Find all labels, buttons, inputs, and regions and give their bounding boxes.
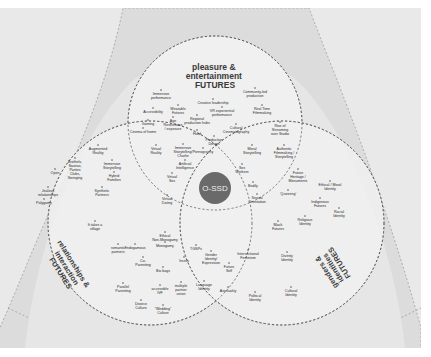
node-dot	[261, 104, 262, 105]
node-dot	[277, 220, 278, 221]
node-dot	[160, 89, 161, 90]
node-polygamy: Polygamy	[36, 198, 52, 205]
node-dot	[203, 280, 204, 281]
node-dot	[117, 243, 118, 244]
node-label: Polygamy	[36, 201, 52, 205]
node-dot	[171, 172, 172, 173]
node-dot	[147, 119, 148, 120]
node-dot	[54, 168, 55, 169]
node-dot	[241, 163, 242, 164]
node-dot	[183, 256, 184, 257]
node-brothels-saunas: Brothels,Saunas,PartiesClubs,Swinging	[68, 157, 83, 180]
center-label: O-SSD	[202, 184, 228, 193]
node-label: Gaming	[142, 122, 155, 126]
node-label: ReligiousIdentity	[298, 218, 313, 226]
node-label: Endogamous	[124, 246, 145, 250]
node-dot	[221, 106, 222, 107]
node-label: Bodily	[248, 184, 258, 188]
node-dot	[287, 189, 288, 190]
node-dot	[286, 251, 287, 252]
node-label: Real TimeFilmmaking	[253, 107, 271, 115]
node-dot	[213, 135, 214, 136]
node-dot	[210, 250, 211, 251]
node-dot	[297, 168, 298, 169]
node-dot	[251, 144, 252, 145]
node-label: AuthenticFilmmaking /Storytelling	[274, 147, 294, 159]
node-label: ImmersiveStorytelling	[103, 162, 121, 170]
node-dot	[228, 262, 229, 263]
node-label: It takes avillage	[88, 223, 103, 231]
node-label: Creative leadership	[198, 101, 229, 105]
node-dot	[111, 159, 112, 160]
node-label: DivinityIdentity	[281, 254, 293, 262]
node-dot	[113, 171, 114, 172]
node-dot	[247, 249, 248, 250]
node-dot	[196, 129, 197, 130]
node-label: WearableFutures	[170, 107, 185, 115]
node-label: VirtualDating	[162, 197, 172, 205]
node-label: Open	[51, 171, 60, 175]
node-label: 'Queering'	[280, 192, 296, 196]
node-dot	[184, 159, 185, 160]
node-dot	[74, 157, 75, 158]
node-dot	[134, 243, 135, 244]
node-dot	[202, 147, 203, 148]
node-open: Open	[51, 168, 60, 175]
node-dot	[164, 231, 165, 232]
node-dot	[142, 256, 143, 257]
node-dot	[177, 104, 178, 105]
node-authentic-filmmaking: AuthenticFilmmaking /Storytelling	[274, 144, 294, 159]
node-dot	[279, 121, 280, 122]
node-dot	[180, 281, 181, 282]
node-dot	[212, 98, 213, 99]
node-label: Monogamy	[156, 244, 174, 248]
node-label: CulturalIdentity	[285, 289, 298, 297]
node-dot	[254, 291, 255, 292]
node-dot	[338, 207, 339, 208]
diagram-frame: pleasure & entertainment FUTURES relatio…	[0, 8, 421, 348]
node-dot	[166, 194, 167, 195]
node-dot	[162, 304, 163, 305]
node-dot	[290, 286, 291, 287]
node-dot	[304, 215, 305, 216]
node-dot	[140, 299, 141, 300]
node-dot	[329, 180, 330, 181]
node-label: SyntheticPartners	[95, 189, 110, 197]
node-dot	[152, 107, 153, 108]
node-label: Brothels,Saunas,PartiesClubs,Swinging	[68, 160, 83, 180]
node-dot	[227, 286, 228, 287]
node-label: Food	[193, 132, 201, 136]
node-dot	[319, 197, 320, 198]
node-dot	[254, 87, 255, 88]
node-dot	[155, 144, 156, 145]
node-label: Asexuality	[220, 289, 237, 293]
node-dot	[122, 282, 123, 283]
node-label: VR experientialperformance	[210, 109, 235, 117]
node-label: Incels	[179, 259, 189, 263]
node-label: Cinema of home	[130, 130, 156, 134]
node-dot	[94, 220, 95, 221]
node-dot	[235, 123, 236, 124]
node-dot	[252, 181, 253, 182]
node-label: HybridFamilies	[107, 174, 121, 182]
node-dot	[47, 186, 48, 187]
node-label: PoliticalIdentity	[249, 294, 262, 302]
node-dot	[101, 186, 102, 187]
node-label: VirtualReality	[151, 147, 162, 155]
node-label: ParallelParenting	[115, 285, 130, 293]
node-dot	[97, 144, 98, 145]
node-label: RacialIdentity	[333, 210, 345, 218]
node-label: romanticpartners	[111, 246, 125, 254]
node-dot	[195, 244, 196, 245]
node-dot	[283, 144, 284, 145]
node-dot	[142, 127, 143, 128]
node-label: DivorceCulture	[135, 302, 147, 310]
node-dot	[159, 284, 160, 285]
node-dot	[172, 116, 173, 117]
node-label: Bio bags	[156, 269, 170, 273]
node-dot	[182, 143, 183, 144]
node-dot	[164, 241, 165, 242]
node-label: TGNPs	[190, 247, 202, 251]
node-label: LanguageIdentity	[196, 283, 212, 291]
node-dot	[256, 193, 257, 194]
